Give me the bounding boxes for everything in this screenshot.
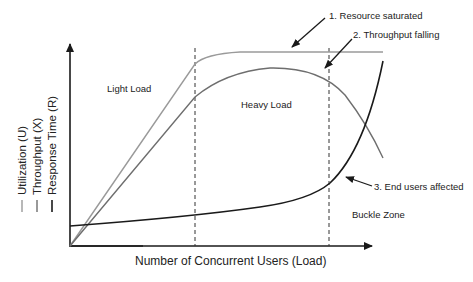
svg-text:Response Time (R): Response Time (R) [46, 96, 58, 195]
arrow-end-users-affected [346, 177, 372, 186]
annotation-resource-saturated: 1. Resource saturated [329, 10, 422, 21]
load-diagram: 1. Resource saturated 2. Throughput fall… [0, 0, 473, 282]
legend-throughput: Throughput (X) [31, 117, 43, 212]
region-light-load: Light Load [107, 83, 151, 94]
utilization-curve [70, 52, 383, 246]
annotation-end-users-affected: 3. End users affected [374, 181, 464, 192]
legend-response-time: Response Time (R) [46, 96, 58, 212]
arrow-resource-saturated [292, 18, 325, 47]
svg-text:Utilization (U): Utilization (U) [16, 126, 28, 195]
svg-text:Throughput (X): Throughput (X) [31, 117, 43, 195]
annotation-throughput-falling: 2. Throughput falling [353, 29, 439, 40]
arrow-throughput-falling [325, 39, 352, 68]
legend-utilization: Utilization (U) [16, 126, 28, 212]
throughput-curve [70, 68, 383, 246]
axes [69, 44, 372, 246]
region-buckle-zone: Buckle Zone [352, 209, 405, 220]
legend: Utilization (U) Throughput (X) Response … [16, 96, 58, 212]
x-axis-label: Number of Concurrent Users (Load) [135, 254, 326, 268]
region-heavy-load: Heavy Load [241, 99, 292, 110]
